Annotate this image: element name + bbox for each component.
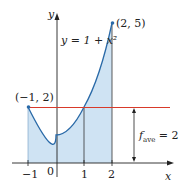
equation-label: y = 1 + x² bbox=[61, 35, 117, 46]
fave-label: fave = 2 bbox=[139, 130, 179, 144]
tick-label-0: 0 bbox=[47, 166, 54, 177]
y-axis-label: y bbox=[48, 9, 54, 20]
fave-arrow-up-icon bbox=[132, 108, 136, 113]
fave-arrow-down-icon bbox=[132, 157, 136, 162]
point-right-label: (2, 5) bbox=[116, 18, 146, 29]
x-axis-label: x bbox=[165, 171, 171, 182]
x-axis-arrow-icon bbox=[167, 161, 174, 166]
tick-label-m1: −1 bbox=[22, 169, 38, 180]
point-left-label: (−1, 2) bbox=[15, 92, 54, 103]
point-left bbox=[27, 105, 31, 109]
fave-sub: ave bbox=[143, 136, 155, 144]
tick-label-2: 2 bbox=[108, 169, 115, 180]
point-right bbox=[111, 21, 115, 25]
tick-label-1: 1 bbox=[81, 169, 88, 180]
y-axis-arrow-icon bbox=[55, 13, 60, 20]
fave-rest: = 2 bbox=[155, 129, 178, 142]
